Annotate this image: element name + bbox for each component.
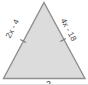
geometry-figure: 2x - 4 4x - 18 2 (0, 0, 88, 85)
triangle-diagram (0, 0, 88, 85)
bottom-edge-divider (0, 84, 88, 85)
